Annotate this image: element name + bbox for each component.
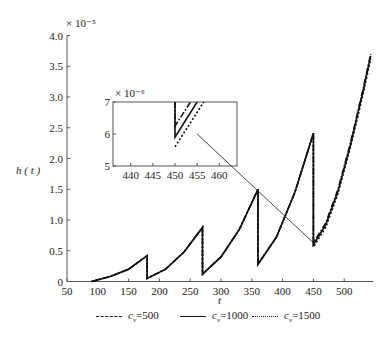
legend-label: cv=1500	[284, 309, 320, 324]
y-tick-label: 0.5	[49, 245, 63, 257]
inset-x-tick-label: 455	[189, 169, 206, 181]
x-tick-label: 150	[120, 285, 137, 297]
x-tick-label: 500	[336, 285, 353, 297]
legend-label: cv=500	[128, 309, 159, 324]
inset-y-tick-label: 6	[105, 128, 111, 140]
legend-label: cv=1000	[212, 309, 248, 324]
inset-x-tick-label: 450	[167, 169, 184, 181]
y-tick-label: 0	[58, 276, 64, 288]
solid-line-swatch	[180, 316, 206, 317]
inset-y-tick-label: 5	[105, 160, 111, 172]
x-tick-label: 200	[151, 285, 168, 297]
x-tick-label: 450	[305, 285, 322, 297]
y-tick-label: 1.0	[49, 214, 63, 226]
legend: cv=500 cv=1000 cv=1500	[0, 309, 391, 327]
x-tick-label: 50	[62, 285, 74, 297]
inset-x-tick-label: 440	[122, 169, 139, 181]
inset-x-tick-label: 445	[145, 169, 162, 181]
dotted-line-swatch	[252, 316, 278, 317]
chart-canvas: 5010015020025030035040045050000.51.01.52…	[0, 0, 391, 342]
y-tick-label: 3.0	[49, 91, 63, 103]
x-tick-label: 300	[213, 285, 230, 297]
y-tick-label: 2.5	[49, 122, 63, 134]
dashdot-line-swatch	[96, 316, 122, 317]
x-tick-label: 400	[274, 285, 291, 297]
y-tick-label: 1.5	[49, 183, 63, 195]
legend-item-cv1500: cv=1500	[252, 309, 320, 324]
inset-x-tick-label: 460	[211, 169, 228, 181]
x-tick-label: 350	[244, 285, 261, 297]
inset-y-tick-label: 7	[105, 96, 111, 108]
legend-item-cv500: cv=500	[96, 309, 159, 324]
y-tick-label: 4.0	[49, 30, 63, 42]
y-axis-label: h ( t )	[16, 164, 40, 177]
inset-y-multiplier: × 10⁻⁶	[115, 87, 145, 99]
x-tick-label: 100	[90, 285, 107, 297]
legend-item-cv1000: cv=1000	[180, 309, 248, 324]
y-tick-label: 3.5	[49, 60, 63, 72]
inset-plot: 440445450455460567× 10⁻⁶	[105, 87, 314, 243]
y-multiplier-label: × 10⁻⁵	[66, 17, 96, 29]
y-tick-label: 2.0	[49, 153, 63, 165]
x-tick-label: 250	[182, 285, 199, 297]
